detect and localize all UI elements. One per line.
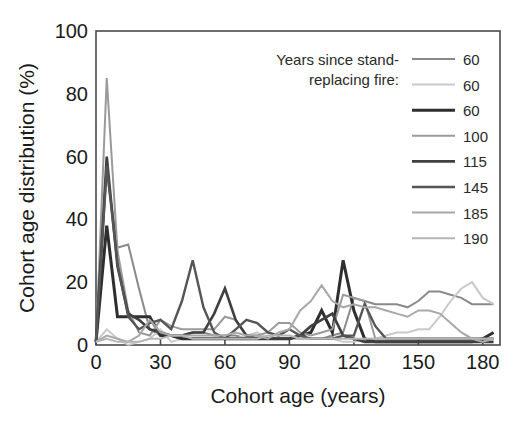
legend-label-1: 60 (463, 77, 480, 94)
y-tick-label: 80 (66, 83, 88, 105)
y-tick-label: 60 (66, 146, 88, 168)
legend-label-3: 100 (463, 128, 488, 145)
x-axis-title-group: Cohort age (years) (210, 384, 385, 407)
series-line-5 (96, 166, 494, 342)
figure-container: Cohort age distribution (%) Cohort age (… (0, 0, 520, 424)
series-line-0 (96, 172, 494, 342)
y-axis-title-group: Cohort age distribution (%) (15, 63, 38, 313)
y-tick-label: 40 (66, 208, 88, 230)
series-line-4 (96, 157, 494, 342)
series-group (96, 78, 494, 345)
legend-label-0: 60 (463, 51, 480, 68)
legend-label-4: 115 (463, 153, 487, 170)
y-tick-label-group: 020406080100 (55, 20, 88, 356)
legend: Years since stand- replacing fire: 60606… (276, 51, 488, 247)
legend-item[interactable]: 60 (412, 77, 480, 94)
x-tick-label-group: 0306090120150180 (90, 351, 499, 373)
y-tick-label: 20 (66, 271, 88, 293)
y-tick-label: 0 (77, 334, 88, 356)
legend-item[interactable]: 100 (412, 128, 488, 145)
legend-label-6: 185 (463, 205, 488, 222)
legend-item[interactable]: 60 (412, 51, 480, 68)
x-tick-label: 30 (149, 351, 171, 373)
legend-item[interactable]: 190 (412, 230, 488, 247)
chart-canvas: Cohort age distribution (%) Cohort age (… (0, 0, 520, 424)
legend-title-line2: replacing fire: (309, 71, 399, 88)
x-axis-title: Cohort age (years) (210, 384, 385, 407)
x-tick-label: 180 (466, 351, 499, 373)
legend-label-7: 190 (463, 230, 488, 247)
legend-item[interactable]: 185 (412, 205, 488, 222)
x-tick-label: 90 (278, 351, 300, 373)
legend-label-2: 60 (463, 102, 480, 119)
x-tick-label: 150 (402, 351, 435, 373)
legend-item[interactable]: 115 (412, 153, 487, 170)
legend-entries: 606060100115145185190 (412, 51, 488, 247)
legend-title-line1: Years since stand- (276, 51, 399, 68)
y-tick-label: 100 (55, 20, 88, 42)
x-tick-label: 0 (90, 351, 101, 373)
y-axis-title: Cohort age distribution (%) (15, 63, 38, 313)
legend-item[interactable]: 145 (412, 179, 488, 196)
x-tick-label: 60 (214, 351, 236, 373)
legend-item[interactable]: 60 (412, 102, 480, 119)
legend-label-5: 145 (463, 179, 488, 196)
x-tick-label: 120 (337, 351, 370, 373)
series-line-3 (96, 78, 494, 342)
